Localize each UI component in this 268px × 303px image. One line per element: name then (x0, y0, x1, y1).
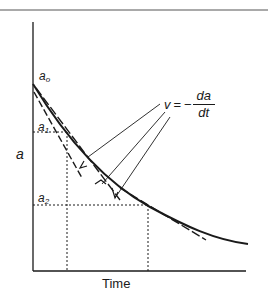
y-axis-label: a (16, 147, 24, 161)
a2-label: a2 (38, 192, 49, 206)
leader-line-3 (115, 117, 170, 198)
x-axis-label: Time (102, 277, 130, 290)
a0-base: a (39, 69, 46, 83)
a0-sub: o (46, 75, 50, 84)
derivative-fraction: da dt (193, 89, 215, 119)
arrow-mark-2 (95, 180, 106, 184)
minus-sign: − (184, 97, 192, 112)
a1-label: a1 (38, 121, 49, 135)
a2-base: a (38, 191, 45, 205)
denominator: dt (198, 106, 209, 120)
rate-diagram (0, 0, 268, 303)
a1-base: a (38, 120, 45, 134)
equals-sign: = (174, 97, 182, 112)
a2-sub: 2 (45, 197, 49, 206)
tangent-line-mid (36, 88, 120, 200)
arrow-mark-1 (80, 161, 87, 168)
chord-line-a0-a1 (34, 92, 82, 178)
rate-symbol: v (164, 97, 171, 112)
a1-sub: 1 (45, 126, 49, 135)
numerator: da (196, 89, 210, 103)
a0-label: ao (39, 70, 50, 84)
decay-curve (33, 84, 248, 244)
leader-line-2 (102, 112, 165, 184)
tangent-line-a2 (120, 188, 206, 240)
rate-equation: v = − da dt (164, 89, 215, 119)
